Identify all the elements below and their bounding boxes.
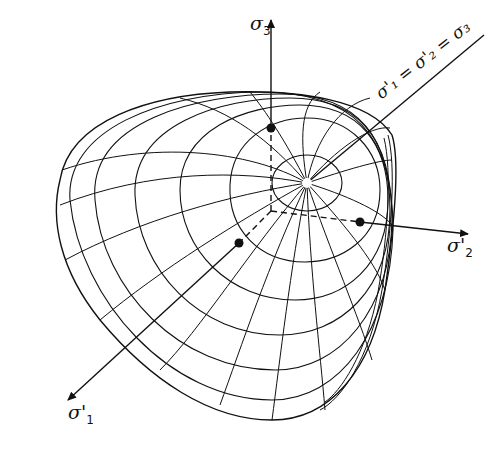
point-sigma3: [267, 124, 276, 133]
point-sigma1: [235, 239, 244, 248]
sigma1-axis-solid: [68, 243, 239, 400]
point-sigma2: [356, 218, 365, 227]
pole-center: [302, 178, 312, 188]
sigma1-axis-dashed: [239, 211, 271, 243]
sigma2-axis-dashed: [271, 211, 360, 222]
sigma1-label: σ'1: [68, 403, 94, 426]
surface-outline: [56, 92, 396, 420]
sigma2-label: σ'2: [447, 236, 473, 259]
sigma3-label: σ3: [250, 14, 271, 37]
yield-surface-figure: σ3 σ'2 σ'1 σ'₁ = σ'₂ = σ₃: [0, 0, 498, 467]
meridian-lines: [60, 92, 392, 420]
sigma2-axis-solid: [360, 222, 468, 234]
